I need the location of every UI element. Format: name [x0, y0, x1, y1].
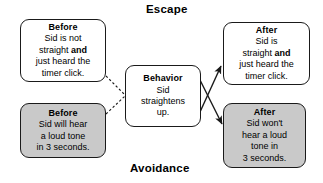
node-behavior-line1: Sid [156, 85, 169, 96]
node-before-avoidance-header: Before [48, 108, 77, 119]
node-behavior-line2: straightens [141, 96, 185, 107]
node-before-escape-line1: Sid is not [44, 33, 81, 44]
node-behavior-header: Behavior [143, 73, 182, 84]
node-after-avoidance-header: After [254, 107, 276, 118]
node-before-avoidance[interactable]: Before Sid will hear a loud tone in 3 se… [20, 103, 106, 158]
node-behavior-line3: up. [157, 107, 170, 118]
section-label-avoidance: Avoidance [130, 162, 190, 174]
node-after-escape-line2: straight and [242, 48, 290, 59]
node-after-escape[interactable]: After Sid is straight and just heard the… [223, 22, 310, 85]
escape-avoidance-diagram: Escape Avoidance Before Sid is not strai… [0, 0, 323, 183]
node-before-escape[interactable]: Before Sid is not straight and just hear… [20, 19, 106, 82]
node-before-escape-header: Before [48, 22, 77, 33]
section-label-escape: Escape [146, 3, 187, 15]
node-before-avoidance-line1: Sid will hear [39, 119, 88, 130]
node-before-escape-line2: straight and [39, 45, 87, 56]
node-after-avoidance[interactable]: After Sid won't hear a loud tone in 3 se… [223, 103, 306, 168]
node-before-escape-line2-text: straight [39, 45, 71, 55]
node-after-escape-line2-emphasis: and [275, 48, 291, 58]
connector-before-avoidance-to-behavior [106, 96, 125, 114]
node-after-avoidance-line2: hear a loud [242, 130, 287, 141]
node-after-escape-line4: timer click. [245, 71, 288, 82]
node-after-escape-line1: Sid is [255, 36, 277, 47]
node-after-avoidance-line4: 3 seconds. [243, 153, 287, 164]
node-before-avoidance-line2: a loud tone [41, 131, 86, 142]
node-before-escape-line4: timer click. [42, 68, 85, 79]
node-before-avoidance-line3: in 3 seconds. [36, 142, 89, 153]
connector-before-escape-to-behavior [106, 76, 125, 95]
arrow-behavior-to-after-escape [200, 66, 221, 112]
node-after-avoidance-line1: Sid won't [246, 118, 282, 129]
node-after-avoidance-line3: tone in [251, 141, 278, 152]
node-behavior[interactable]: Behavior Sid straightens up. [125, 65, 201, 127]
node-before-escape-line2-emphasis: and [71, 45, 87, 55]
node-after-escape-line3: just heard the [239, 59, 294, 70]
node-before-escape-line3: just heard the [36, 56, 91, 67]
node-after-escape-line2-text: straight [242, 48, 274, 58]
node-after-escape-header: After [256, 25, 278, 36]
